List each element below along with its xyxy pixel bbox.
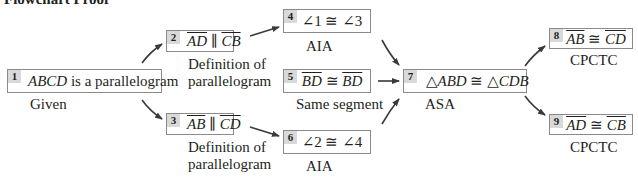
step-9-box: 9 AD ≅ CB [549, 114, 633, 135]
step-7-reason: ASA [425, 96, 455, 113]
arrow-7-to-9 [525, 96, 545, 115]
step-number: 5 [284, 70, 297, 83]
arrow-7-to-8 [525, 46, 545, 66]
arrow-1-to-3 [142, 100, 162, 119]
step-1-box: 1 ABCD is a parallelogram [7, 69, 162, 93]
step-4-box: 4 ∠1 ≅ ∠3 [283, 9, 371, 33]
step-number: 3 [167, 114, 180, 127]
step-7-box: 7 △ABD ≅ △CDB [403, 69, 527, 93]
step-2-box: 2 AD ∥ CB [166, 30, 234, 52]
step-2-reason: Definition ofparallelogram [188, 56, 271, 90]
step-6-reason: AIA [306, 158, 333, 175]
arrow-4-to-7 [382, 40, 399, 65]
step-9-reason: CPCTC [570, 139, 618, 156]
step-number: 9 [550, 115, 563, 128]
step-6-box: 6 ∠2 ≅ ∠4 [283, 130, 371, 154]
step-number: 8 [550, 29, 563, 42]
step-statement: △ABD ≅ △CDB [404, 72, 535, 90]
step-number: 1 [8, 70, 21, 83]
arrow-6-to-7 [382, 99, 399, 124]
step-number: 2 [167, 31, 180, 44]
step-number: 7 [404, 70, 417, 83]
step-1-reason: Given [30, 96, 67, 113]
arrow-2-to-4 [250, 27, 279, 36]
step-8-box: 8 AB ≅ CD [549, 28, 633, 49]
step-5-reason: Same segment [296, 96, 383, 113]
arrow-3-to-6 [250, 127, 279, 136]
arrow-1-to-2 [142, 44, 162, 63]
step-number: 6 [284, 131, 297, 144]
step-3-box: 3 AB ∥ CD [166, 113, 234, 135]
step-8-reason: CPCTC [570, 52, 618, 69]
step-statement: ABCD is a parallelogram [8, 73, 184, 90]
step-3-reason: Definition ofparallelogram [188, 139, 271, 173]
step-number: 4 [284, 10, 297, 23]
step-4-reason: AIA [306, 38, 333, 55]
step-5-box: 5 BD ≅ BD [283, 69, 371, 93]
